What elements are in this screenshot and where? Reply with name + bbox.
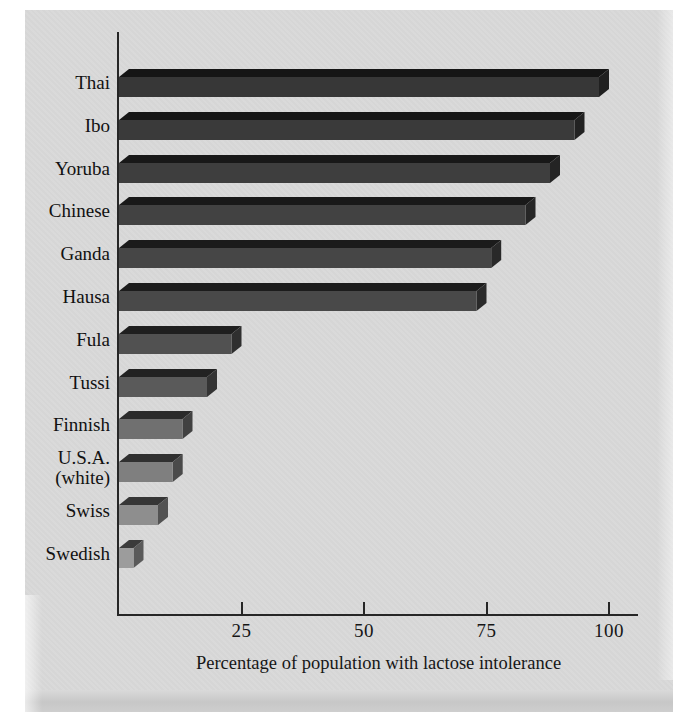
bar-top-face xyxy=(119,369,217,377)
bar-front-face xyxy=(119,377,207,397)
bar-u-s-a-white xyxy=(119,454,185,483)
bar-front-face xyxy=(119,505,158,525)
bar-front-face xyxy=(119,248,491,268)
bar-thai xyxy=(119,69,612,98)
category-label-5: Hausa xyxy=(8,287,110,307)
bar-swedish xyxy=(119,540,146,569)
x-tick-25 xyxy=(241,602,243,614)
bar-top-face xyxy=(119,240,501,248)
bar-finnish xyxy=(119,411,195,440)
category-label-8: Finnish xyxy=(8,415,110,435)
bar-chinese xyxy=(119,197,538,226)
category-label-6: Fula xyxy=(8,330,110,350)
x-tick-label-100: 100 xyxy=(579,620,639,642)
scan-right-fade xyxy=(657,0,673,680)
bar-front-face xyxy=(119,77,599,97)
category-label-1: Ibo xyxy=(8,116,110,136)
bar-yoruba xyxy=(119,155,563,184)
bar-top-face xyxy=(119,454,183,462)
bar-front-face xyxy=(119,291,477,311)
bar-ganda xyxy=(119,240,504,269)
scan-left-fade xyxy=(0,595,42,712)
x-tick-label-50: 50 xyxy=(334,620,394,642)
bar-front-face xyxy=(119,548,134,568)
category-label-0: Thai xyxy=(8,73,110,93)
bar-top-face xyxy=(119,112,585,120)
bar-ibo xyxy=(119,112,587,141)
bar-top-face xyxy=(119,283,487,291)
category-label-10: Swiss xyxy=(8,501,110,521)
bar-hausa xyxy=(119,283,489,312)
category-label-4: Ganda xyxy=(8,244,110,264)
bar-front-face xyxy=(119,120,575,140)
category-label-2: Yoruba xyxy=(8,159,110,179)
x-tick-label-25: 25 xyxy=(212,620,272,642)
x-axis-line xyxy=(117,614,638,616)
bar-front-face xyxy=(119,419,183,439)
bar-top-face xyxy=(119,155,560,163)
bar-front-face xyxy=(119,163,550,183)
bar-swiss xyxy=(119,497,170,526)
category-label-9: U.S.A.(white) xyxy=(8,448,110,488)
bar-front-face xyxy=(119,205,526,225)
bar-fula xyxy=(119,326,244,355)
lactose-intolerance-bar-chart: ThaiIboYorubaChineseGandaHausaFulaTussiF… xyxy=(0,0,673,712)
bar-top-face xyxy=(119,326,242,334)
x-tick-75 xyxy=(486,602,488,614)
bar-front-face xyxy=(119,334,232,354)
bar-top-face xyxy=(119,411,193,419)
bar-front-face xyxy=(119,462,173,482)
category-label-3: Chinese xyxy=(8,201,110,221)
bar-tussi xyxy=(119,369,219,398)
category-label-11: Swedish xyxy=(8,544,110,564)
bar-top-face xyxy=(119,197,536,205)
x-tick-label-75: 75 xyxy=(457,620,517,642)
category-label-7: Tussi xyxy=(8,373,110,393)
x-tick-100 xyxy=(608,602,610,614)
x-axis-title: Percentage of population with lactose in… xyxy=(119,653,638,674)
x-tick-50 xyxy=(363,602,365,614)
bar-top-face xyxy=(119,69,609,77)
